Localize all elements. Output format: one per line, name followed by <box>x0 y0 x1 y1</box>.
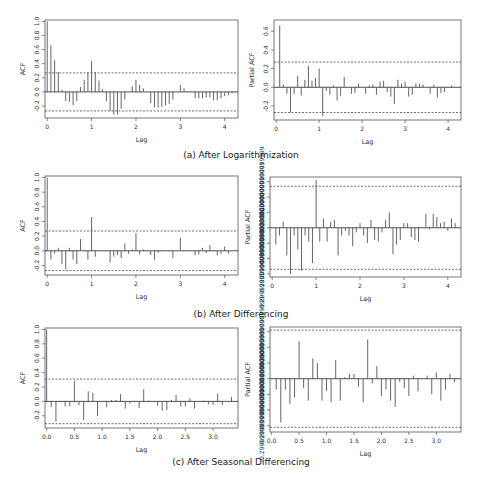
x-tick-label: 2.5 <box>181 433 191 440</box>
x-tick-label: 0.5 <box>70 433 80 440</box>
y-tick-label: 0.4 <box>262 45 269 55</box>
a-pacf-chart: 01234-0.20.00.20.40.6LagPartial ACF <box>248 20 461 146</box>
b-acf-chart: 01234-0.20.00.20.40.60.81.0LagACF <box>19 173 238 301</box>
x-tick-label: 4 <box>223 123 227 130</box>
x-tick-label: 2.0 <box>153 433 163 440</box>
x-tick-label: 1.0 <box>322 437 332 444</box>
x-tick-label: 1.0 <box>97 433 107 440</box>
x-tick-label: 2 <box>358 282 362 289</box>
y-tick-label: -0.2 <box>33 410 40 422</box>
x-tick-label: 0.0 <box>42 433 52 440</box>
y-tick-label: 0.0 <box>33 396 40 406</box>
y-axis-label: Partial ACF <box>248 52 256 87</box>
y-tick-label: -0.2 <box>262 100 269 112</box>
caption-a: (a) After Logarithmization <box>0 150 482 160</box>
x-tick-label: 1 <box>90 123 94 130</box>
y-tick-label: 0.4 <box>33 217 40 227</box>
x-tick-label: 1 <box>314 282 318 289</box>
y-axis-label: ACF <box>19 371 27 384</box>
y-tick-label: 0.6 <box>33 353 40 363</box>
y-tick-label: -0.2 <box>33 259 40 271</box>
y-axis-label: Partial ACF <box>244 209 252 244</box>
plot-frame <box>45 328 238 428</box>
caption-b: (b) After Differencing <box>0 309 482 319</box>
y-tick-label: 1.0 <box>33 324 40 334</box>
x-axis-label: Lag <box>362 138 374 146</box>
x-tick-label: 0.5 <box>294 437 304 444</box>
y-tick-label: 0.4 <box>33 368 40 378</box>
x-tick-label: 0 <box>45 280 49 287</box>
plot-frame <box>45 20 238 118</box>
x-tick-label: 0.0 <box>267 437 277 444</box>
b-pacf-chart: 01234-0.29999999999999999-0.200000000000… <box>244 146 461 310</box>
y-tick-label: 0.0 <box>33 87 40 97</box>
y-tick-label: 0.29999999999999999 <box>258 296 265 367</box>
x-tick-label: 0 <box>270 282 274 289</box>
plot-frame <box>45 176 238 275</box>
y-tick-label: 1.0 <box>33 173 40 183</box>
x-axis-label: Lag <box>136 293 148 301</box>
y-tick-label: 0.6 <box>33 202 40 212</box>
y-tick-label: 1.0 <box>33 16 40 26</box>
x-tick-label: 0 <box>45 123 49 130</box>
x-tick-label: 4 <box>223 280 227 287</box>
x-tick-label: 3.0 <box>432 437 442 444</box>
x-axis-label: Lag <box>360 295 372 303</box>
acf-pacf-figure: 01234-0.20.00.20.40.60.81.0LagACF01234-0… <box>0 0 482 484</box>
x-tick-label: 2 <box>360 125 364 132</box>
c-pacf-chart: 0.00.51.01.52.02.53.0-0.2999999999999999… <box>244 296 461 462</box>
x-tick-label: 1.5 <box>125 433 135 440</box>
x-tick-label: 3 <box>403 125 407 132</box>
y-tick-label: 0.2 <box>33 231 40 241</box>
y-tick-label: 0.2 <box>33 73 40 83</box>
y-tick-label: 0.6 <box>262 26 269 36</box>
x-tick-label: 3.0 <box>208 433 218 440</box>
plot-frame <box>274 20 461 120</box>
x-tick-label: 1.5 <box>349 437 359 444</box>
x-tick-label: 4 <box>446 125 450 132</box>
y-axis-label: Partial ACF <box>244 362 252 397</box>
x-tick-label: 0 <box>274 125 278 132</box>
x-tick-label: 2 <box>134 123 138 130</box>
x-tick-label: 3 <box>178 123 182 130</box>
y-tick-label: 0.8 <box>33 187 40 197</box>
x-tick-label: 1 <box>90 280 94 287</box>
y-tick-label: 0.4 <box>33 59 40 69</box>
y-axis-label: ACF <box>19 219 27 232</box>
x-tick-label: 2.5 <box>404 437 414 444</box>
y-tick-label: 0.8 <box>33 31 40 41</box>
x-tick-label: 1 <box>317 125 321 132</box>
x-tick-label: 3 <box>178 280 182 287</box>
x-tick-label: 2 <box>134 280 138 287</box>
y-tick-label: 0.0 <box>262 82 269 92</box>
a-acf-chart: 01234-0.20.00.20.40.60.81.0LagACF <box>19 16 238 144</box>
y-tick-label: 0.2 <box>33 382 40 392</box>
plot-frame <box>270 177 461 277</box>
x-axis-label: Lag <box>136 446 148 454</box>
caption-c: (c) After Seasonal Differencing <box>0 457 482 467</box>
y-tick-label: 0.8 <box>33 339 40 349</box>
y-tick-label: -0.2 <box>33 100 40 112</box>
y-axis-label: ACF <box>19 62 27 75</box>
x-tick-label: 4 <box>446 282 450 289</box>
x-tick-label: 2.0 <box>377 437 387 444</box>
y-tick-label: 0.0 <box>33 246 40 256</box>
x-axis-label: Lag <box>136 136 148 144</box>
y-tick-label: 0.2 <box>262 64 269 74</box>
x-tick-label: 3 <box>402 282 406 289</box>
c-acf-chart: 0.00.51.01.52.02.53.0-0.20.00.20.40.60.8… <box>19 324 238 454</box>
y-tick-label: 0.6 <box>33 45 40 55</box>
